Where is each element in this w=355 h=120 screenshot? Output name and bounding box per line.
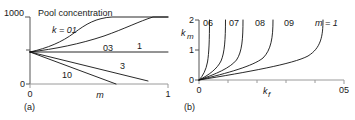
curve-k-01	[30, 17, 168, 52]
curve-label-10: 10	[62, 70, 72, 80]
curve-m-1	[199, 20, 323, 80]
panel-a-y-label-0: 0	[20, 79, 25, 89]
panel-a-x-label-0: 0	[27, 89, 32, 99]
figure-container: Pool concentration 1000 0 0 1 m k = 01 0…	[0, 0, 355, 120]
panel-a-x-label-1: 1	[165, 89, 170, 99]
panel-b-xlabel: k f	[263, 86, 271, 99]
panel-a-title: Pool concentration	[38, 8, 113, 18]
panel-b-x-label-05: 05	[339, 85, 349, 95]
panel-b-xlabel-sub: f	[268, 90, 271, 99]
panel-a-y-label-1000: 1000	[4, 8, 24, 18]
curve-09	[199, 20, 273, 80]
curve-label-1: 1	[137, 41, 142, 51]
panel-b-y-label-0: 0	[189, 75, 194, 85]
curve-label-09: 09	[284, 18, 294, 28]
curve-08	[199, 20, 243, 80]
panel-b-y-label-1: 1	[189, 45, 194, 55]
panel-b-y-label-2: 2	[189, 15, 194, 25]
panel-b-ylabel-sub: m	[187, 32, 194, 41]
panel-a-xlabel: m	[96, 90, 104, 100]
curve-06	[199, 20, 210, 80]
curve-label-3: 3	[120, 61, 125, 71]
panel-b-ylabel: k m	[181, 28, 194, 41]
curve-label-07: 07	[229, 18, 239, 28]
panel-b-caption: (b)	[184, 102, 195, 112]
panel-a-plot: Pool concentration 1000 0 0 1 m k = 01 0…	[0, 0, 178, 120]
panel-a-caption: (a)	[24, 102, 35, 112]
curve-3	[30, 52, 148, 81]
curve-03	[30, 17, 168, 52]
panel-a: Pool concentration 1000 0 0 1 m k = 01 0…	[0, 0, 178, 120]
panel-b-x-label-0: 0	[196, 85, 201, 95]
curve-label-k-01: k = 01	[52, 25, 77, 35]
panel-b: 2 1 0 k m 0 05 k f 06 07 08 09 m = 1 (b)	[178, 0, 355, 120]
curve-label-08: 08	[255, 18, 265, 28]
curve-label-m-1: m = 1	[315, 18, 338, 28]
curve-label-03: 03	[103, 43, 113, 53]
curve-label-06: 06	[203, 18, 213, 28]
curve-10	[30, 52, 116, 84]
panel-b-ylabel-base: k	[181, 28, 186, 38]
panel-b-plot: 2 1 0 k m 0 05 k f 06 07 08 09 m = 1 (b)	[178, 0, 355, 120]
